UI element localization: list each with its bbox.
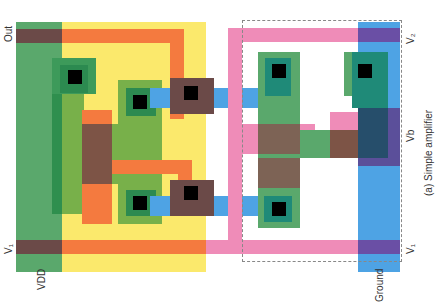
- label-v2: V₂: [405, 33, 416, 44]
- label-v1-left: V₁: [3, 244, 14, 254]
- contact-square: [184, 86, 198, 100]
- label-vb: Vb: [405, 130, 416, 142]
- out-wire-overlap: [16, 29, 62, 43]
- label-vdd: VDD: [36, 269, 47, 290]
- label-out: Out: [3, 26, 14, 42]
- label-ground: Ground: [374, 269, 385, 302]
- contact-square: [68, 70, 82, 84]
- v1-overlap-left: [16, 240, 62, 254]
- label-v1-right: V₁: [405, 244, 416, 254]
- contact-square: [133, 196, 147, 210]
- diff-region: [52, 94, 62, 214]
- diff-region: [60, 94, 84, 214]
- contact-square: [133, 95, 147, 109]
- poly-overlap: [82, 124, 112, 184]
- contact-square: [184, 186, 198, 200]
- caption: (a) Simple amplifier: [423, 110, 434, 196]
- cell-boundary: [242, 20, 402, 262]
